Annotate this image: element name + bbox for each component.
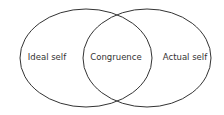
congruence-label: Congruence [90, 52, 141, 62]
actual-self-label: Actual self [163, 52, 207, 62]
ideal-self-label: Ideal self [28, 52, 66, 62]
